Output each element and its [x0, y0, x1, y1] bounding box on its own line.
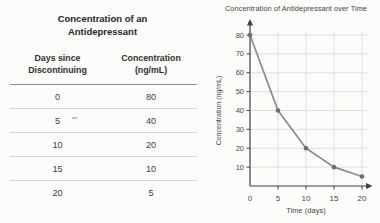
- chart-title: Concentration of Antidepressant over Tim…: [212, 4, 380, 13]
- svg-text:80: 80: [236, 31, 244, 40]
- svg-text:Time (days): Time (days): [286, 206, 326, 215]
- svg-text:50: 50: [236, 87, 244, 96]
- svg-text:20: 20: [236, 144, 244, 153]
- table-row: 15 10: [10, 157, 197, 181]
- column-header-concentration-line1: Concentration: [105, 52, 197, 64]
- column-header-concentration-line2: (ng/mL): [105, 64, 197, 76]
- table-title-line1: Concentration of an: [0, 12, 205, 25]
- cell-days: 15: [10, 164, 105, 174]
- svg-text:Concentration (ng/mL): Concentration (ng/mL): [215, 76, 223, 146]
- table-title: Concentration of an Antidepressant: [0, 12, 205, 38]
- column-header-days-line2: Discontinuing: [10, 64, 105, 76]
- chart-panel: Concentration of Antidepressant over Tim…: [210, 0, 380, 223]
- svg-text:40: 40: [236, 106, 244, 115]
- cell-concentration: 40: [105, 116, 197, 126]
- data-table-panel: Concentration of an Antidepressant Days …: [0, 0, 205, 223]
- cell-days: 0: [10, 92, 105, 102]
- cell-days: 10: [10, 140, 105, 150]
- table-row: 20 5: [10, 181, 197, 204]
- cell-concentration: 20: [105, 140, 197, 150]
- svg-text:60: 60: [236, 68, 244, 77]
- cell-days: 5: [10, 116, 105, 126]
- svg-text:70: 70: [236, 49, 244, 58]
- svg-text:10: 10: [302, 194, 311, 203]
- table-row: 5 40: [10, 109, 197, 133]
- svg-text:15: 15: [330, 194, 339, 203]
- cell-days: 20: [10, 188, 105, 198]
- svg-text:30: 30: [236, 125, 244, 134]
- table-body: 0 80 5 40 10 20 15 10 20 5: [10, 85, 197, 204]
- svg-text:0: 0: [248, 194, 253, 203]
- table-row: 10 20: [10, 133, 197, 157]
- svg-text:5: 5: [276, 194, 281, 203]
- cell-concentration: 80: [105, 92, 197, 102]
- cell-concentration: 10: [105, 164, 197, 174]
- scanned-page: Concentration of an Antidepressant Days …: [0, 0, 380, 223]
- column-header-days: Days since Discontinuing: [10, 52, 105, 76]
- svg-text:10: 10: [236, 163, 244, 172]
- table-header-row: Days since Discontinuing Concentration (…: [10, 52, 197, 76]
- column-header-concentration: Concentration (ng/mL): [105, 52, 197, 76]
- cell-concentration: 5: [105, 188, 197, 198]
- table-title-line2: Antidepressant: [0, 25, 205, 38]
- table-row: 0 80: [10, 85, 197, 109]
- column-header-days-line1: Days since: [10, 52, 105, 64]
- svg-text:20: 20: [358, 194, 367, 203]
- line-chart: 102030405060708005101520Concentration (n…: [210, 14, 380, 219]
